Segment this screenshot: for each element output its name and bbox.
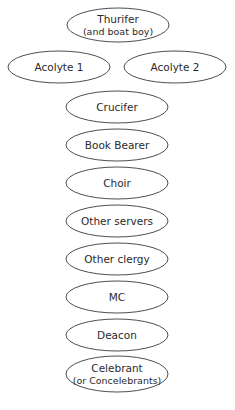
node-other-clergy: Other clergy (66, 243, 168, 275)
node-deacon: Deacon (66, 319, 168, 351)
node-label: Celebrant (91, 362, 142, 374)
node-label: Crucifer (96, 101, 138, 113)
node-other-servers: Other servers (66, 205, 168, 237)
node-crucifer: Crucifer (66, 91, 168, 123)
node-label: Other servers (81, 215, 153, 227)
node-sublabel: (or Concelebrants) (73, 375, 162, 386)
node-sublabel: (and boat boy) (83, 26, 153, 37)
node-label: Acolyte 2 (151, 61, 200, 73)
node-label: MC (109, 291, 125, 303)
node-choir: Choir (66, 167, 168, 199)
node-thurifer: Thurifer(and boat boy) (67, 8, 169, 42)
node-acolyte-1: Acolyte 1 (8, 51, 110, 83)
node-label: Other clergy (84, 253, 149, 265)
node-book-bearer: Book Bearer (66, 129, 168, 161)
node-label: Choir (103, 177, 131, 189)
node-label: Deacon (97, 329, 137, 341)
node-mc: MC (66, 281, 168, 313)
node-acolyte-2: Acolyte 2 (124, 51, 226, 83)
node-label: Book Bearer (85, 139, 150, 151)
node-label: Thurifer (96, 13, 139, 25)
node-label: Acolyte 1 (35, 61, 84, 73)
node-celebrant: Celebrant(or Concelebrants) (66, 356, 168, 392)
procession-diagram: Thurifer(and boat boy)Acolyte 1Acolyte 2… (0, 0, 235, 410)
